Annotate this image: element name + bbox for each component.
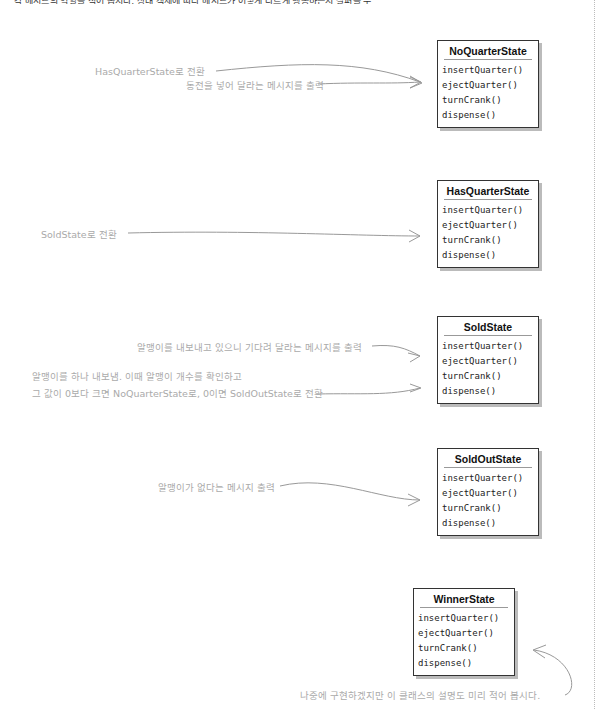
note-soldout-eject: 알맹이가 없다는 메시지 출력	[158, 480, 275, 494]
method-ejectquarter: ejectQuarter()	[442, 354, 534, 369]
state-box-winnerstate: WinnerState insertQuarter() ejectQuarter…	[413, 588, 515, 676]
note-hasquarter-turn: SoldState로 전환	[41, 227, 117, 241]
class-name: HasQuarterState	[438, 181, 538, 199]
method-dispense: dispense()	[442, 516, 534, 531]
method-insertquarter: insertQuarter()	[442, 471, 534, 486]
class-name: SoldOutState	[438, 449, 538, 467]
method-insertquarter: insertQuarter()	[442, 203, 534, 218]
state-box-noquarterstate: NoQuarterState insertQuarter() ejectQuar…	[437, 40, 539, 128]
class-name: NoQuarterState	[438, 41, 538, 59]
note-winner: 나중에 구현하겠지만 이 클래스의 설명도 미리 적어 봅시다.	[300, 688, 540, 702]
note-sold-dispense-line2: 그 값이 0보다 크면 NoQuarterState로, 0이면 SoldOut…	[32, 386, 323, 400]
method-turncrank: turnCrank()	[442, 93, 534, 108]
note-noquarter-eject: 동전을 넣어 달라는 메시지를 출력	[186, 78, 324, 92]
note-noquarter-insert: HasQuarterState로 전환	[95, 64, 205, 78]
state-box-soldstate: SoldState insertQuarter() ejectQuarter()…	[437, 316, 539, 404]
method-turncrank: turnCrank()	[442, 369, 534, 384]
method-dispense: dispense()	[442, 248, 534, 263]
state-box-soldoutstate: SoldOutState insertQuarter() ejectQuarte…	[437, 448, 539, 536]
method-turncrank: turnCrank()	[442, 501, 534, 516]
method-turncrank: turnCrank()	[442, 233, 534, 248]
method-insertquarter: insertQuarter()	[418, 611, 510, 626]
method-dispense: dispense()	[418, 656, 510, 671]
method-ejectquarter: ejectQuarter()	[442, 78, 534, 93]
note-sold-turn: 알맹이를 내보내고 있으니 기다려 달라는 메시지를 출력	[137, 340, 362, 354]
note-sold-dispense-line1: 알맹이를 하나 내보냄. 이때 알맹이 개수를 확인하고	[32, 369, 242, 383]
method-dispense: dispense()	[442, 108, 534, 123]
method-insertquarter: insertQuarter()	[442, 63, 534, 78]
state-box-hasquarterstate: HasQuarterState insertQuarter() ejectQua…	[437, 180, 539, 268]
class-name: WinnerState	[414, 589, 514, 607]
method-turncrank: turnCrank()	[418, 641, 510, 656]
class-name: SoldState	[438, 317, 538, 335]
method-ejectquarter: ejectQuarter()	[418, 626, 510, 641]
method-dispense: dispense()	[442, 384, 534, 399]
method-ejectquarter: ejectQuarter()	[442, 486, 534, 501]
method-ejectquarter: ejectQuarter()	[442, 218, 534, 233]
method-insertquarter: insertQuarter()	[442, 339, 534, 354]
